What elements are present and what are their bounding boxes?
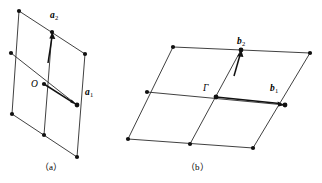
lattice-node: [17, 9, 21, 13]
basis-vector-a2: [48, 32, 55, 63]
lattice-node: [75, 155, 79, 159]
lattice-node: [251, 146, 255, 150]
lattice-figure: a2 a1 O b2 b1 Γ （a） （b）: [0, 0, 322, 183]
lattice-edge: [11, 53, 77, 105]
lattice-node: [126, 137, 130, 141]
origin-label-o: O: [31, 80, 38, 90]
vector-label-a2: a2: [50, 11, 58, 21]
lattice-edge: [253, 53, 310, 148]
lattice-edge: [12, 11, 19, 114]
lattice-node: [9, 51, 13, 55]
lattice-node: [171, 45, 175, 49]
lattice-node: [145, 90, 149, 94]
vector-label-a1: a1: [85, 88, 93, 98]
panel-b-lattice: [126, 45, 312, 150]
caption-panel-b: （b）: [186, 163, 209, 172]
vector-label-b2: b2: [237, 37, 245, 47]
lattice-node: [188, 142, 192, 146]
lattice-node: [42, 133, 46, 137]
lattice-node: [308, 51, 312, 55]
caption-panel-a: （a）: [40, 163, 62, 172]
lattice-node: [83, 52, 87, 56]
lattice-node: [10, 112, 14, 116]
origin-label-gamma: Γ: [203, 84, 208, 94]
panel-a-lattice: [9, 9, 87, 159]
lattice-edge: [128, 47, 173, 139]
vector-label-b1: b1: [270, 84, 278, 94]
basis-vector-a1: [44, 84, 77, 105]
